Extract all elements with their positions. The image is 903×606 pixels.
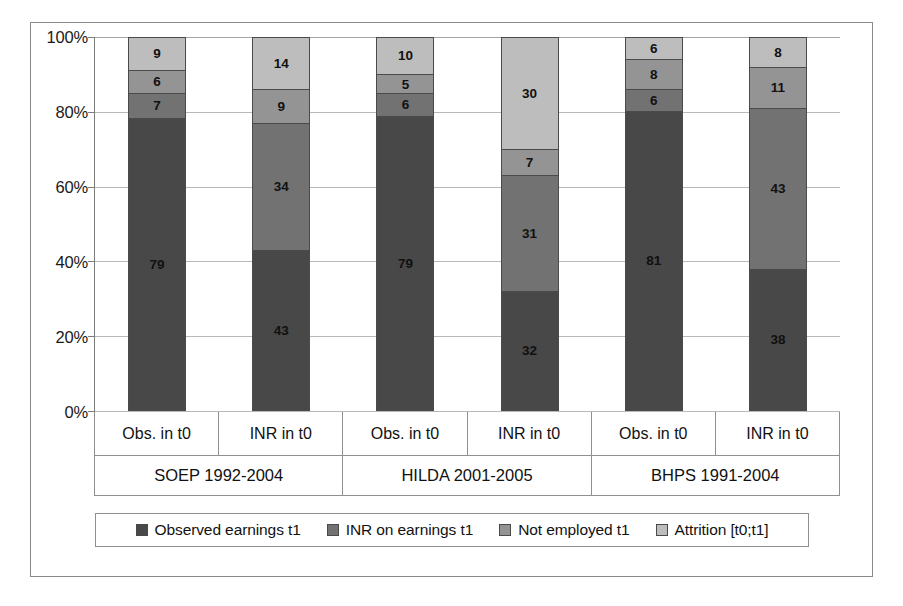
- bar-segment[interactable]: 6: [625, 89, 683, 111]
- bar-segment[interactable]: 79: [376, 116, 434, 411]
- category-row-groups: SOEP 1992-2004HILDA 2001-2005BHPS 1991-2…: [94, 456, 840, 496]
- legend-label: Observed earnings t1: [155, 521, 301, 539]
- legend-swatch-icon: [136, 524, 148, 536]
- legend-item-4[interactable]: Attrition [t0;t1]: [656, 521, 769, 539]
- legend-item-2[interactable]: INR on earnings t1: [327, 521, 473, 539]
- bar-segment-value: 10: [398, 49, 413, 63]
- bar-segment-value: 81: [646, 254, 661, 268]
- group-label-2: HILDA 2001-2005: [343, 456, 591, 496]
- y-axis-label: 0%: [65, 403, 88, 422]
- y-axis-label: 20%: [56, 328, 88, 347]
- bar-segment-value: 14: [274, 57, 289, 71]
- category-label-2: INR in t0: [219, 412, 343, 456]
- legend-swatch-icon: [656, 524, 668, 536]
- bar-segment-value: 79: [150, 258, 165, 272]
- bar-segment[interactable]: 7: [501, 149, 559, 175]
- bar-segment-value: 8: [650, 68, 658, 82]
- bar-segment-value: 11: [771, 81, 785, 95]
- bar-segment-value: 30: [522, 87, 537, 101]
- bar-segment-value: 6: [650, 42, 658, 56]
- bar-segment-value: 31: [522, 227, 537, 241]
- bar-segment-value: 7: [153, 99, 161, 113]
- gridline: [95, 261, 840, 262]
- category-row-subgroups: Obs. in t0INR in t0Obs. in t0INR in t0Ob…: [94, 412, 840, 456]
- y-axis-tick: [88, 37, 95, 38]
- bar-segment-value: 79: [398, 257, 413, 271]
- bar-segment[interactable]: 10: [376, 37, 434, 74]
- bar-segment[interactable]: 6: [128, 70, 186, 92]
- bar-segment[interactable]: 31: [501, 175, 559, 291]
- chart-legend: Observed earnings t1INR on earnings t1No…: [95, 513, 809, 547]
- bar-segment-value: 8: [774, 46, 782, 60]
- legend-item-1[interactable]: Observed earnings t1: [136, 521, 301, 539]
- bar-segment[interactable]: 5: [376, 74, 434, 93]
- bar-segment[interactable]: 9: [128, 37, 186, 70]
- category-label-1: Obs. in t0: [94, 412, 219, 456]
- bar-segment[interactable]: 79: [128, 118, 186, 411]
- gridline: [95, 112, 840, 113]
- bar-segment[interactable]: 6: [376, 93, 434, 115]
- y-axis-label: 40%: [56, 253, 88, 272]
- bar-segment[interactable]: 7: [128, 93, 186, 119]
- bar-segment[interactable]: 34: [252, 123, 310, 250]
- bar-segment-value: 6: [402, 98, 410, 112]
- bar-segment[interactable]: 32: [501, 291, 559, 411]
- bar-1[interactable]: 96779: [128, 37, 186, 411]
- legend-swatch-icon: [499, 524, 511, 536]
- bar-segment-value: 43: [770, 182, 785, 196]
- category-axis: Obs. in t0INR in t0Obs. in t0INR in t0Ob…: [94, 412, 840, 496]
- bar-segment-value: 9: [153, 47, 161, 61]
- category-label-4: INR in t0: [468, 412, 592, 456]
- legend-label: Not employed t1: [518, 521, 629, 539]
- bar-6[interactable]: 8114338: [749, 37, 807, 411]
- gridline: [95, 336, 840, 337]
- bar-segment[interactable]: 43: [749, 108, 807, 269]
- bar-segment[interactable]: 14: [252, 37, 310, 89]
- bar-segment[interactable]: 9: [252, 89, 310, 123]
- bar-segment[interactable]: 8: [625, 59, 683, 89]
- y-axis-tick: [88, 187, 95, 188]
- gridline: [95, 187, 840, 188]
- category-label-6: INR in t0: [716, 412, 840, 456]
- category-label-3: Obs. in t0: [343, 412, 467, 456]
- plot-wrap: 9677914934431056793073132686818114338 0%…: [94, 37, 840, 412]
- legend-label: Attrition [t0;t1]: [675, 521, 769, 539]
- y-axis-label: 80%: [56, 103, 88, 122]
- bar-segment-value: 5: [402, 78, 410, 92]
- figure-frame: 9677914934431056793073132686818114338 0%…: [30, 22, 873, 577]
- bar-5[interactable]: 68681: [625, 37, 683, 411]
- category-label-5: Obs. in t0: [592, 412, 716, 456]
- bar-segment-value: 6: [153, 75, 161, 89]
- y-axis-tick: [88, 336, 95, 337]
- group-label-1: SOEP 1992-2004: [94, 456, 343, 496]
- bar-segment-value: 38: [770, 333, 785, 347]
- bar-segment[interactable]: 30: [501, 37, 559, 149]
- bar-segment-value: 34: [274, 180, 289, 194]
- legend-item-3[interactable]: Not employed t1: [499, 521, 629, 539]
- gridline: [95, 37, 840, 38]
- bar-3[interactable]: 105679: [376, 37, 434, 411]
- bar-segment-value: 6: [650, 94, 658, 108]
- y-axis-tick: [88, 261, 95, 262]
- bar-segment[interactable]: 43: [252, 250, 310, 411]
- bar-segment[interactable]: 81: [625, 111, 683, 411]
- bar-segment[interactable]: 11: [749, 67, 807, 108]
- bar-segment[interactable]: 38: [749, 269, 807, 411]
- bar-segment-value: 9: [277, 100, 285, 114]
- y-axis-label: 100%: [47, 28, 88, 47]
- bar-segment-value: 7: [526, 156, 534, 170]
- bar-2[interactable]: 1493443: [252, 37, 310, 411]
- legend-label: INR on earnings t1: [346, 521, 473, 539]
- y-axis-label: 60%: [56, 178, 88, 197]
- legend-swatch-icon: [327, 524, 339, 536]
- bar-4[interactable]: 3073132: [501, 37, 559, 411]
- bar-segment[interactable]: 6: [625, 37, 683, 59]
- plot-area: 9677914934431056793073132686818114338: [94, 37, 840, 412]
- group-label-3: BHPS 1991-2004: [592, 456, 840, 496]
- bar-segment-value: 43: [274, 324, 289, 338]
- y-axis-tick: [88, 112, 95, 113]
- bar-segment-value: 32: [522, 344, 537, 358]
- bar-segment[interactable]: 8: [749, 37, 807, 67]
